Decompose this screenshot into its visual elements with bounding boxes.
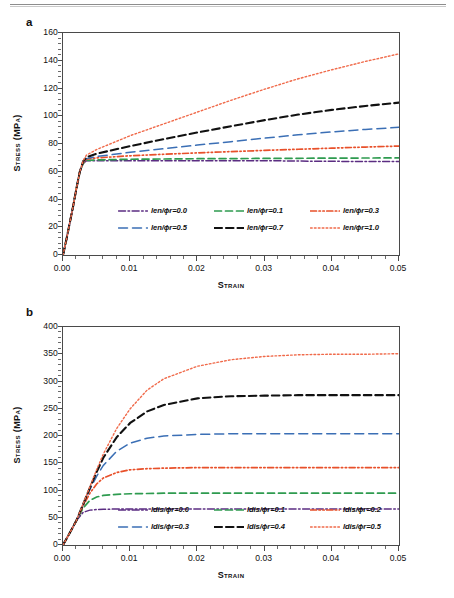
y-tick-minor <box>58 43 61 44</box>
legend-item: ldis/ϕr=0.0 <box>118 505 214 514</box>
legend-line-swatch <box>214 224 244 232</box>
y-tick-minor <box>58 210 61 211</box>
x-tick-major <box>331 256 332 261</box>
legend-line-swatch <box>118 506 148 514</box>
y-tick-minor <box>58 110 61 111</box>
legend-item: ldis/ϕr=0.4 <box>214 522 310 531</box>
x-tick-minor <box>102 256 103 259</box>
x-tick-minor <box>116 546 117 549</box>
x-tick-minor <box>317 546 318 549</box>
y-tick-minor <box>58 364 61 365</box>
x-tick-minor <box>183 256 184 259</box>
x-tick-minor <box>210 256 211 259</box>
y-tick-minor <box>58 386 61 387</box>
x-tick-minor <box>143 256 144 259</box>
y-tick-minor <box>58 522 61 523</box>
x-tick-minor <box>156 546 157 549</box>
legend-label: ldis/ϕr=0.4 <box>247 522 285 531</box>
legend-line-swatch <box>118 523 148 531</box>
legend-item: ldis/ϕr=0.5 <box>310 522 406 531</box>
x-tick-minor <box>170 546 171 549</box>
x-axis-title-a: Strain <box>62 280 400 290</box>
y-tick-minor <box>58 506 61 507</box>
y-tick-minor <box>58 126 61 127</box>
x-tick-minor <box>223 546 224 549</box>
y-tick-minor <box>58 160 61 161</box>
x-tick-minor <box>344 546 345 549</box>
y-tick-minor <box>58 121 61 122</box>
x-tick-minor <box>277 256 278 259</box>
x-tick-minor <box>237 256 238 259</box>
x-tick-minor <box>102 546 103 549</box>
x-tick-minor <box>89 256 90 259</box>
y-tick-minor <box>58 54 61 55</box>
legend-line-swatch <box>310 224 340 232</box>
legend-line-swatch <box>214 523 244 531</box>
y-tick-label: 60 <box>24 166 58 176</box>
legend-item: len/ϕr=0.7 <box>214 223 310 232</box>
y-tick-label: 0 <box>24 249 58 259</box>
x-tick-label: 0.03 <box>255 263 272 273</box>
y-tick-minor <box>58 65 61 66</box>
y-tick-minor <box>58 154 61 155</box>
y-tick-minor <box>58 337 61 338</box>
y-tick-minor <box>58 430 61 431</box>
x-tick-label: 0.04 <box>322 553 339 563</box>
x-tick-minor <box>358 256 359 259</box>
legend-label: len/ϕr=0.7 <box>247 223 283 232</box>
x-tick-minor <box>385 256 386 259</box>
y-tick-label: 20 <box>24 221 58 231</box>
x-tick-major <box>129 256 130 261</box>
x-tick-minor <box>250 546 251 549</box>
y-tick-minor <box>58 49 61 50</box>
legend-label: ldis/ϕr=0.5 <box>343 522 381 531</box>
x-tick-major <box>196 546 197 551</box>
y-tick-minor <box>58 440 61 441</box>
y-tick-minor <box>58 397 61 398</box>
figure-page: a Stress (MPa) 020406080100120140160 0.0… <box>0 0 454 598</box>
y-tick-minor <box>58 528 61 529</box>
y-tick-minor <box>58 76 61 77</box>
x-tick-minor <box>304 546 305 549</box>
y-tick-minor <box>58 165 61 166</box>
x-tick-minor <box>385 546 386 549</box>
page-top-rule-secondary <box>10 6 446 7</box>
x-tick-label: 0.05 <box>390 263 407 273</box>
legend-line-swatch <box>118 224 148 232</box>
y-tick-minor <box>58 391 61 392</box>
legend-label: ldis/ϕr=0.3 <box>151 522 189 531</box>
x-tick-minor <box>156 256 157 259</box>
legend-label: len/ϕr=0.1 <box>247 206 283 215</box>
x-tick-major <box>398 546 399 551</box>
y-tick-minor <box>58 248 61 249</box>
x-tick-minor <box>371 256 372 259</box>
x-tick-minor <box>75 256 76 259</box>
y-tick-minor <box>58 99 61 100</box>
y-tick-minor <box>58 149 61 150</box>
y-tick-minor <box>58 243 61 244</box>
y-tick-label: 400 <box>24 321 58 331</box>
x-tick-minor <box>183 546 184 549</box>
x-tick-minor <box>304 256 305 259</box>
legend-item: len/ϕr=0.5 <box>118 223 214 232</box>
x-tick-minor <box>371 546 372 549</box>
y-tick-minor <box>58 38 61 39</box>
legend-label: ldis/ϕr=0.2 <box>343 505 381 514</box>
x-tick-minor <box>170 256 171 259</box>
x-tick-label: 0.04 <box>322 263 339 273</box>
x-tick-label: 0.00 <box>54 553 71 563</box>
x-tick-major <box>129 546 130 551</box>
legend-item: len/ϕr=0.3 <box>310 206 406 215</box>
y-tick-label: 80 <box>24 138 58 148</box>
y-tick-minor <box>58 193 61 194</box>
x-tick-major <box>62 546 63 551</box>
y-tick-label: 100 <box>24 485 58 495</box>
y-tick-minor <box>58 342 61 343</box>
x-tick-minor <box>317 256 318 259</box>
x-tick-minor <box>89 546 90 549</box>
x-tick-label: 0.01 <box>121 263 138 273</box>
x-tick-minor <box>237 546 238 549</box>
y-tick-minor <box>58 221 61 222</box>
y-tick-label: 160 <box>24 27 58 37</box>
y-tick-label: 200 <box>24 430 58 440</box>
